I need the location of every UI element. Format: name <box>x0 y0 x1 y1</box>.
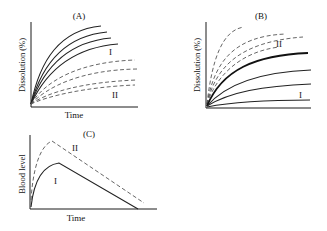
curve-a-II-2 <box>31 69 137 104</box>
panel-c-label-I: I <box>54 176 57 186</box>
panel-c-xlabel: Time <box>67 213 86 223</box>
panel-a-xlabel: Time <box>65 110 84 120</box>
panel-a-title: (A) <box>73 11 86 21</box>
curve-b-II-3 <box>207 37 303 104</box>
curve-b-II-2 <box>207 34 286 104</box>
curve-a-II-4 <box>31 85 135 104</box>
panel-c-title: (C) <box>83 129 95 139</box>
panel-b-label-II: II <box>276 39 282 49</box>
curve-a-I-4 <box>31 44 118 104</box>
panel-b-label-I: I <box>299 90 302 100</box>
panel-a: (A) Time Dissolution (%) I II <box>17 11 138 120</box>
panel-c: (C) Time Blood level II I <box>17 129 157 223</box>
curve-b-I-2 <box>207 84 311 106</box>
curve-b-I-3 <box>207 100 310 107</box>
panel-b-ylabel: Dissolution (%) <box>192 38 202 92</box>
figure: (A) Time Dissolution (%) I II (B) Dissol… <box>0 0 327 231</box>
curve-c-I <box>31 163 138 209</box>
panel-b: (B) Dissolution (%) II I <box>192 11 311 108</box>
curve-a-II-3 <box>31 80 137 104</box>
panel-b-title: (B) <box>255 11 267 21</box>
curve-a-I-1 <box>31 26 101 104</box>
curve-a-II-1 <box>31 60 135 104</box>
panel-c-ylabel: Blood level <box>17 154 27 194</box>
curve-c-II <box>31 141 144 203</box>
panel-a-label-I: I <box>109 47 112 57</box>
panel-c-label-II: II <box>72 143 78 153</box>
curve-b-II-1 <box>207 27 244 104</box>
panel-a-ylabel: Dissolution (%) <box>17 38 27 92</box>
panel-a-label-II: II <box>112 90 118 100</box>
